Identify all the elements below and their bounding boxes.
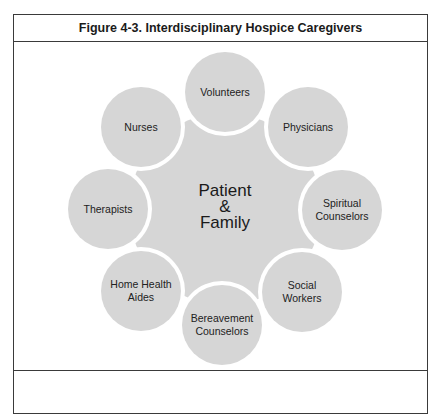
- satellite-label: Volunteers: [200, 86, 250, 99]
- satellite-label: Nurses: [124, 121, 157, 134]
- center-label: Patient & Family: [199, 183, 252, 231]
- satellite-label: Therapists: [83, 203, 132, 216]
- satellite-label: Bereavement Counselors: [191, 312, 253, 338]
- satellite-label: Social Workers: [283, 279, 322, 305]
- satellite-label: Home Health Aides: [110, 278, 171, 304]
- satellite-label: Spiritual Counselors: [315, 197, 368, 223]
- satellite-label: Physicians: [283, 121, 333, 134]
